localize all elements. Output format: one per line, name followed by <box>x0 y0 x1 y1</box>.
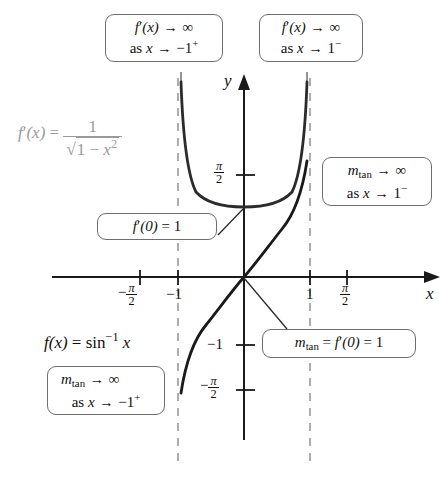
callout-line-1: mtan = f′(0) = 1 <box>270 333 408 354</box>
callout-line-1: f′(x) → ∞ <box>267 18 355 37</box>
sqrt-icon: √ <box>66 140 75 159</box>
infinity-symbol: ∞ <box>109 371 120 387</box>
as-word: as <box>130 40 143 56</box>
value-one: 1 <box>376 334 384 350</box>
m-symbol: m <box>348 162 359 178</box>
m-symbol: m <box>295 334 306 350</box>
tan-subscript: tan <box>72 377 85 389</box>
argument-x: (x) <box>49 333 68 352</box>
as-word: as <box>281 40 294 56</box>
equals-sign: = <box>323 334 331 350</box>
denominator-two: 2 <box>214 172 224 185</box>
denominator-two: 2 <box>340 294 350 307</box>
argument-x: (x) <box>26 123 45 142</box>
equals-sign: = <box>364 334 372 350</box>
ytick-label-neg-one: −1 <box>207 336 223 353</box>
pi-symbol: π <box>208 375 218 387</box>
pi-symbol: π <box>214 160 224 172</box>
equals-sign: = <box>161 218 169 234</box>
function-formula-label: f(x) = sin−1 x <box>44 331 130 352</box>
variable-x: x <box>88 394 95 410</box>
callout-line-2: as x → 1− <box>267 37 355 58</box>
callout-deriv-at-zero[interactable]: f′(0) = 1 <box>97 213 217 240</box>
from-left-superscript: − <box>335 37 341 49</box>
argument-zero: (0) <box>140 218 158 234</box>
denominator-two: 2 <box>208 387 218 400</box>
pi-symbol: π <box>126 282 136 294</box>
minus-sign: − <box>118 284 126 300</box>
minus-sign: − <box>176 40 184 56</box>
as-word: as <box>347 185 360 201</box>
infinity-symbol: ∞ <box>396 162 407 178</box>
leader-line-deriv-zero <box>218 209 243 235</box>
denominator-sqrt: √1 − x2 <box>63 136 122 159</box>
radicand-x: x <box>103 140 111 159</box>
ytick-label-pi-over-2: π2 <box>214 160 224 186</box>
callout-line-2: as x → 1− <box>330 182 424 203</box>
arrow-icon: → <box>374 185 390 201</box>
argument-x: (x) <box>142 19 159 35</box>
callout-deriv-inf-right[interactable]: f′(x) → ∞ as x → 1− <box>259 14 363 62</box>
pi-over-two-fraction: π2 <box>340 282 350 308</box>
xtick-label-neg-one: −1 <box>166 286 182 303</box>
radicand-one: 1 <box>77 140 86 159</box>
minus-sign: − <box>200 377 208 393</box>
x-axis-arrowhead <box>424 271 440 283</box>
arrow-icon: → <box>310 19 326 35</box>
callout-deriv-inf-left[interactable]: f′(x) → ∞ as x → −1+ <box>105 14 223 62</box>
as-word: as <box>72 394 85 410</box>
derivative-formula-label: f′(x) = 1 √1 − x2 <box>18 118 122 158</box>
infinity-symbol: ∞ <box>330 19 341 35</box>
arrow-icon: → <box>156 40 172 56</box>
radicand-minus: − <box>90 140 100 159</box>
callout-mtan-inf-left[interactable]: mtan → ∞ as x → −1+ <box>47 366 165 415</box>
sin-exponent: −1 <box>106 330 119 344</box>
pi-over-two-fraction: π2 <box>214 160 224 186</box>
from-right-superscript: + <box>192 37 198 49</box>
callout-line-2: as x → −1+ <box>113 37 215 58</box>
arrow-icon: → <box>376 162 392 178</box>
arrow-icon: → <box>89 371 105 387</box>
callout-mtan-inf-right[interactable]: mtan → ∞ as x → 1− <box>322 157 432 206</box>
arrow-icon: → <box>98 394 114 410</box>
variable-x: x <box>363 185 370 201</box>
infinity-symbol: ∞ <box>183 19 194 35</box>
pi-over-two-fraction: π2 <box>126 282 136 308</box>
variable-x: x <box>146 40 153 56</box>
x-axis-label: x <box>426 285 434 304</box>
callout-line-1: f′(x) → ∞ <box>113 18 215 37</box>
xtick-label-one: 1 <box>306 286 314 303</box>
figure-container: y x −π2 −1 1 π2 π2 −1 −π2 f′(x) = 1 √1 −… <box>0 0 443 480</box>
m-symbol: m <box>61 371 72 387</box>
numerator-one: 1 <box>63 118 122 136</box>
equals-sign: = <box>72 333 82 352</box>
callout-line-1: mtan → ∞ <box>55 370 157 391</box>
xtick-label-pi-over-2: π2 <box>340 282 350 308</box>
denominator-two: 2 <box>126 294 136 307</box>
sin-symbol: sin <box>86 333 106 352</box>
value-one: 1 <box>174 218 182 234</box>
tan-subscript: tan <box>306 340 319 352</box>
minus-sign: − <box>118 394 126 410</box>
argument-x: (x) <box>289 19 306 35</box>
variable-x: x <box>123 333 131 352</box>
radicand: 1 − x2 <box>76 137 119 159</box>
callout-line-1: f′(0) = 1 <box>105 217 209 236</box>
limit-value: 1 <box>328 40 336 56</box>
argument-zero: (0) <box>342 334 360 350</box>
from-right-superscript: + <box>134 391 140 403</box>
y-axis-arrowhead <box>238 74 250 90</box>
variable-x: x <box>297 40 304 56</box>
callout-line-2: as x → −1+ <box>55 391 157 412</box>
from-left-superscript: − <box>401 182 407 194</box>
ytick-label-neg-pi-over-2: −π2 <box>200 375 219 401</box>
arrow-icon: → <box>163 19 179 35</box>
y-axis-label: y <box>224 72 232 91</box>
equals-sign: = <box>50 123 60 142</box>
limit-value: 1 <box>394 185 402 201</box>
pi-symbol: π <box>340 282 350 294</box>
callout-line-1: mtan → ∞ <box>330 161 424 182</box>
callout-mtan-at-zero[interactable]: mtan = f′(0) = 1 <box>262 329 416 358</box>
tan-subscript: tan <box>359 168 372 180</box>
pi-over-two-fraction: π2 <box>208 375 218 401</box>
